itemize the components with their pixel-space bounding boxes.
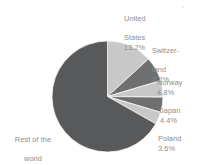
pie-chart: United States 13.2% Switzer- land 7.2% N… [0, 0, 205, 165]
pie-label-poland: Poland 3.6% [158, 125, 204, 163]
label-text-line1: Japan [160, 106, 180, 115]
stray-speck [182, 6, 184, 8]
label-text-line1: Switzer- [152, 46, 179, 55]
label-text-line1: Poland [158, 134, 181, 143]
label-percent: 4.8% [157, 88, 203, 97]
label-text-line1: United [124, 14, 146, 23]
label-percent: 4.4% [160, 116, 204, 125]
label-text-line2: States [124, 33, 145, 42]
label-text-line1: Rest of the [15, 135, 51, 144]
label-text-line2: world [24, 154, 42, 163]
label-percent: 3.6% [158, 144, 204, 153]
label-percent: 66.8% [2, 164, 64, 165]
label-text-line1: Norway [157, 78, 182, 87]
pie-label-rest-of-world: Rest of the world 66.8% [2, 126, 64, 165]
